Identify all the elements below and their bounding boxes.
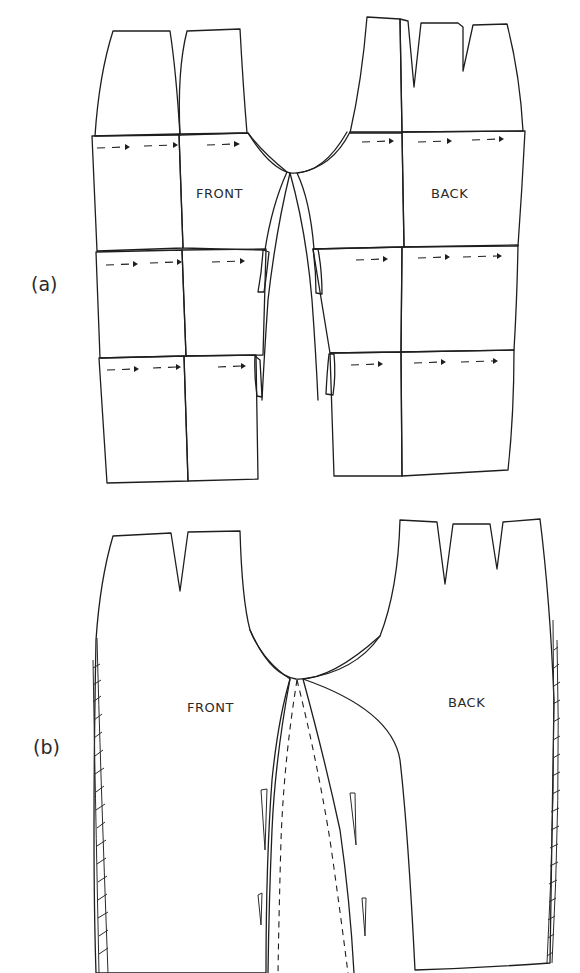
back-row3-left (326, 352, 402, 476)
back-inseam-tab-2 (362, 898, 366, 936)
front-label-b: FRONT (187, 700, 234, 715)
front-row1-left (92, 134, 183, 251)
back-row2-left (313, 247, 402, 353)
front-inseam-tab-2 (258, 893, 262, 925)
back-row2-right (401, 245, 518, 352)
front-row3-right (184, 355, 262, 481)
back-label-a: BACK (431, 186, 468, 201)
back-row3-right (401, 350, 514, 476)
front-yoke-right (179, 29, 247, 135)
pattern-diagram: (a) FRONT (0, 0, 580, 973)
back-yoke-left (350, 17, 402, 133)
back-label-b: BACK (448, 695, 485, 710)
back-row1-right: BACK (402, 131, 525, 247)
back-pattern-piece-b: BACK (303, 519, 554, 970)
front-pattern-piece-b: FRONT (94, 531, 290, 973)
front-inseam-b (268, 679, 290, 973)
front-yoke-left (95, 31, 180, 136)
diagram-part-b: (b) FRONT BACK (33, 519, 560, 973)
front-row3-left (99, 356, 188, 483)
diagram-part-a: (a) FRONT (31, 17, 525, 483)
part-a-label: (a) (31, 273, 57, 295)
back-inseam-tab-1 (350, 793, 356, 845)
back-inseam-a (290, 173, 318, 400)
part-b-label: (b) (33, 736, 60, 758)
back-side-seam-hatch (547, 620, 560, 963)
back-inseam-dashed (297, 680, 348, 973)
back-yoke-right (400, 19, 523, 132)
front-row2-right (182, 249, 269, 356)
front-row1-right: FRONT (179, 133, 287, 250)
back-inseam-b (303, 679, 354, 973)
front-inseam-dashed (278, 680, 297, 973)
front-inseam-tab-1 (261, 789, 267, 850)
crotch-curve-b (250, 630, 380, 679)
front-inseam-a (262, 173, 290, 400)
back-row1-left (297, 132, 404, 249)
crotch-curve-a (248, 132, 347, 173)
front-row2-left (96, 250, 186, 358)
front-label-a: FRONT (196, 186, 243, 201)
